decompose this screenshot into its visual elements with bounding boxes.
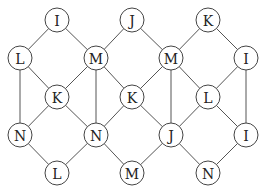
lattice-diagram: IJKLMMIKKLNNJILMN (0, 0, 267, 194)
graph-node: J (120, 8, 144, 32)
graph-node: M (84, 46, 108, 70)
graph-node: L (45, 161, 69, 185)
node-label: J (127, 13, 135, 29)
graph-node: M (120, 161, 144, 185)
node-label: M (125, 166, 139, 182)
node-label: L (52, 166, 61, 182)
graph-node: K (45, 85, 69, 109)
node-label: M (89, 51, 103, 67)
graph-node: J (159, 123, 183, 147)
node-label: L (203, 90, 212, 106)
nodes-group: IJKLMMIKKLNNJILMN (8, 8, 258, 185)
node-label: J (166, 128, 174, 144)
graph-node: M (159, 46, 183, 70)
graph-node: L (8, 46, 32, 70)
node-label: N (14, 128, 26, 144)
graph-node: L (196, 85, 220, 109)
graph-node: I (234, 46, 258, 70)
node-label: K (52, 90, 63, 106)
graph-node: N (8, 123, 32, 147)
graph-node: K (120, 85, 144, 109)
node-label: I (243, 128, 249, 144)
node-label: K (127, 90, 138, 106)
graph-node: N (84, 123, 108, 147)
node-label: N (90, 128, 102, 144)
node-label: N (202, 166, 214, 182)
graph-node: N (196, 161, 220, 185)
graph-node: I (45, 8, 69, 32)
node-label: I (243, 51, 249, 67)
node-label: I (54, 13, 60, 29)
node-label: M (164, 51, 178, 67)
graph-node: K (196, 8, 220, 32)
graph-node: I (234, 123, 258, 147)
node-label: L (15, 51, 24, 67)
node-label: K (203, 13, 214, 29)
